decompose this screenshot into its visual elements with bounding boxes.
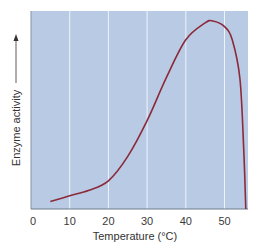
- x-tick-label: 0: [30, 215, 36, 227]
- x-tick-label: 30: [141, 215, 153, 227]
- plot-area: [31, 11, 248, 209]
- x-tick-label: 20: [102, 215, 114, 227]
- y-axis-title: Enzyme activity: [10, 89, 22, 166]
- enzyme-activity-chart: 01020304050 Temperature (°C) Enzyme acti…: [0, 0, 262, 248]
- x-axis-title: Temperature (°C): [93, 230, 177, 242]
- x-tick-labels: 01020304050: [30, 215, 231, 227]
- x-tick-label: 10: [64, 215, 76, 227]
- arrow-up-icon: [14, 34, 19, 41]
- x-tick-label: 50: [218, 215, 230, 227]
- x-tick-label: 40: [180, 215, 192, 227]
- y-axis-title-group: Enzyme activity: [10, 89, 22, 166]
